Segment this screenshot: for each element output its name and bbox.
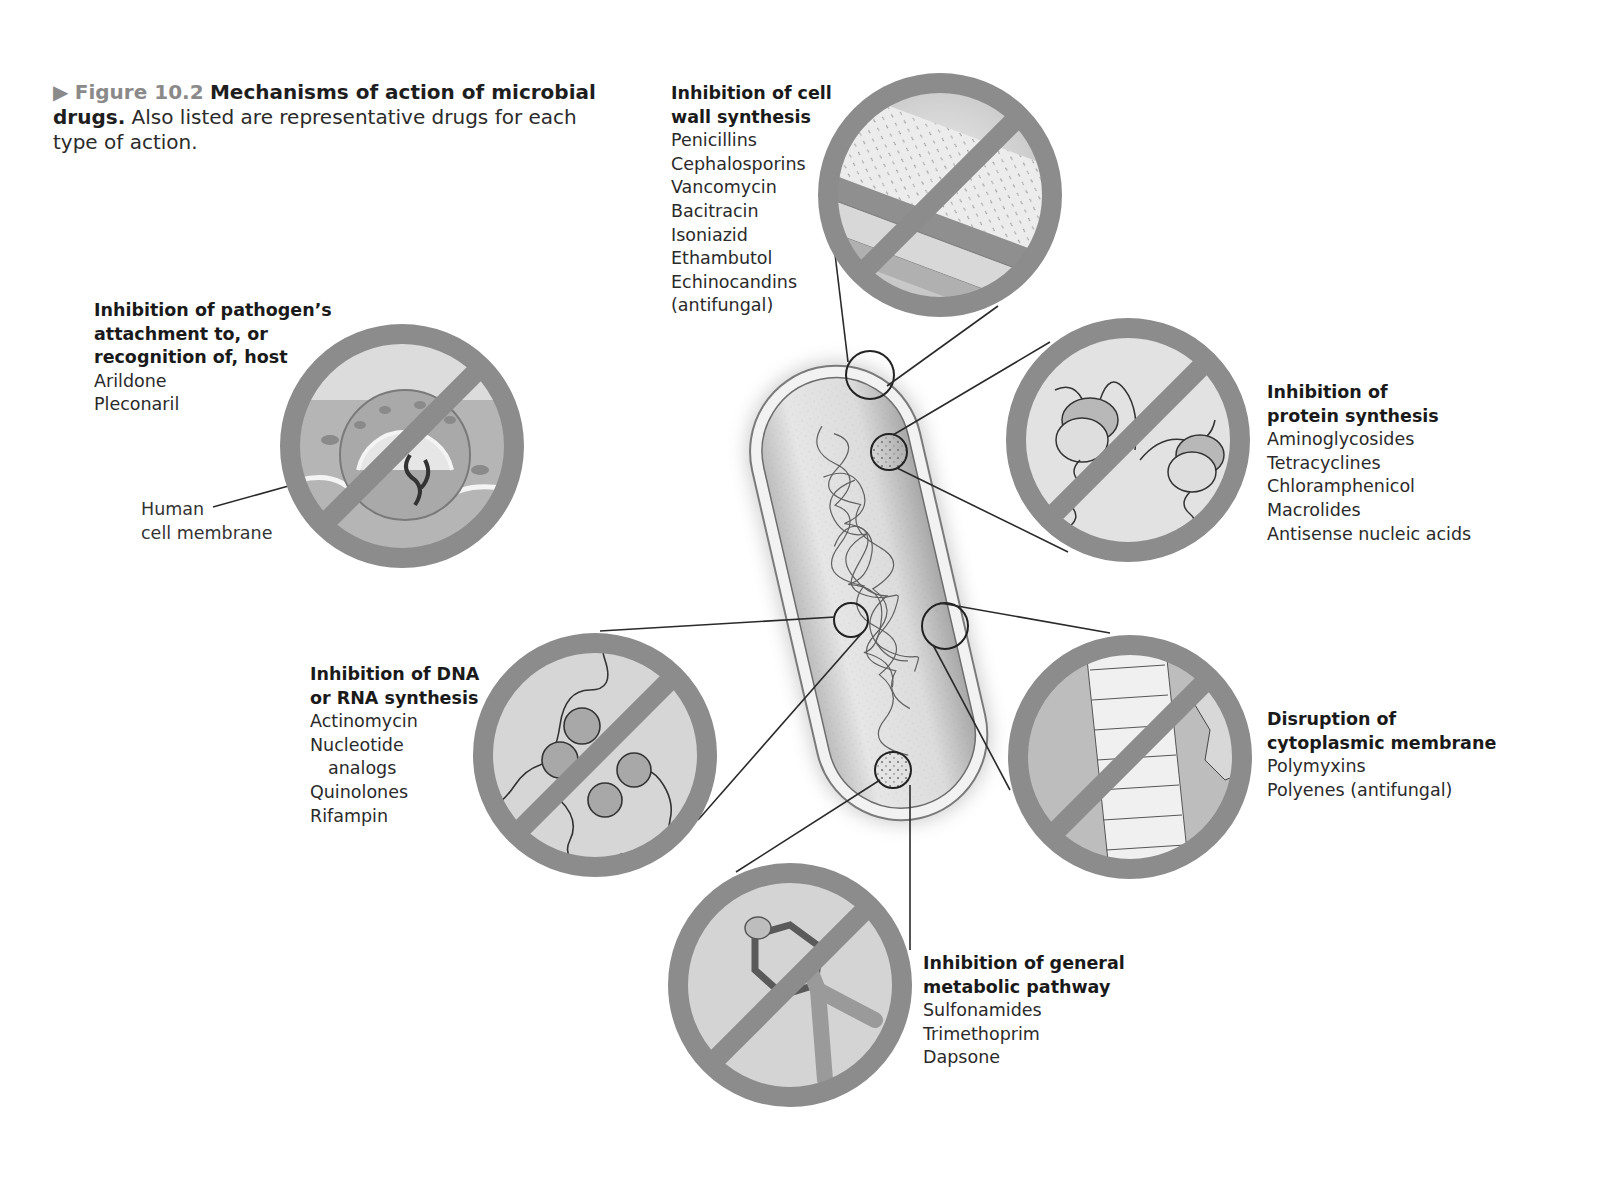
drug-name: Dapsone	[923, 1046, 1125, 1070]
drug-name: analogs	[310, 757, 479, 781]
drug-name: Cephalosporins	[671, 153, 832, 177]
inset-membrane	[1018, 640, 1260, 880]
label-protein-synthesis: Inhibition of protein synthesis Aminogly…	[1267, 381, 1471, 546]
drug-name: Isoniazid	[671, 224, 832, 248]
mechanism-title: wall synthesis	[671, 106, 832, 130]
mechanism-title: Inhibition of pathogen’s	[94, 299, 332, 323]
mechanism-title: metabolic pathway	[923, 976, 1125, 1000]
focus-circle-protein	[871, 434, 907, 470]
bacterium-cell	[728, 344, 1009, 842]
drug-name: (antifungal)	[671, 294, 832, 318]
label-cytoplasmic-membrane: Disruption of cytoplasmic membrane Polym…	[1267, 708, 1496, 802]
drug-name: Sulfonamides	[923, 999, 1125, 1023]
drug-name: Echinocandins	[671, 271, 832, 295]
inset-protein	[1016, 328, 1240, 561]
inset-dna-rna	[483, 638, 707, 886]
drug-name: Polyenes (antifungal)	[1267, 779, 1496, 803]
inset-metabolic	[678, 873, 902, 1097]
mechanism-title: Disruption of	[1267, 708, 1496, 732]
drug-name: Arildone	[94, 370, 332, 394]
annotation-line: cell membrane	[141, 522, 272, 546]
mechanism-title: recognition of, host	[94, 346, 332, 370]
drug-name: Bacitracin	[671, 200, 832, 224]
drug-name: Quinolones	[310, 781, 479, 805]
drug-name: Ethambutol	[671, 247, 832, 271]
drug-name: Polymyxins	[1267, 755, 1496, 779]
label-attachment-inhibition: Inhibition of pathogen’s attachment to, …	[94, 299, 332, 417]
label-cell-wall-synthesis: Inhibition of cell wall synthesis Penici…	[671, 82, 832, 318]
drug-name: Trimethoprim	[923, 1023, 1125, 1047]
mechanism-title: Inhibition of DNA	[310, 663, 479, 687]
label-dna-rna-synthesis: Inhibition of DNA or RNA synthesis Actin…	[310, 663, 479, 828]
drug-name: Rifampin	[310, 805, 479, 829]
focus-circle-metabolic	[875, 752, 911, 788]
drug-name: Actinomycin	[310, 710, 479, 734]
label-metabolic-pathway: Inhibition of general metabolic pathway …	[923, 952, 1125, 1070]
drug-name: Vancomycin	[671, 176, 832, 200]
drug-name: Penicillins	[671, 129, 832, 153]
drug-name: Aminoglycosides	[1267, 428, 1471, 452]
mechanism-title: Inhibition of general	[923, 952, 1125, 976]
mechanism-title: Inhibition of cell	[671, 82, 832, 106]
drug-name: Chloramphenicol	[1267, 475, 1471, 499]
drug-name: Tetracyclines	[1267, 452, 1471, 476]
drug-name: Antisense nucleic acids	[1267, 523, 1471, 547]
drug-name: Pleconaril	[94, 393, 332, 417]
annotation-line: Human	[141, 498, 272, 522]
drug-name: Macrolides	[1267, 499, 1471, 523]
mechanism-title: Inhibition of	[1267, 381, 1471, 405]
inset-cell-wall	[820, 80, 1060, 340]
mechanism-title: or RNA synthesis	[310, 687, 479, 711]
mechanism-title: cytoplasmic membrane	[1267, 732, 1496, 756]
mechanism-title: attachment to, or	[94, 323, 332, 347]
human-cell-membrane-annotation: Human cell membrane	[141, 498, 272, 545]
mechanism-title: protein synthesis	[1267, 405, 1471, 429]
drug-name: Nucleotide	[310, 734, 479, 758]
